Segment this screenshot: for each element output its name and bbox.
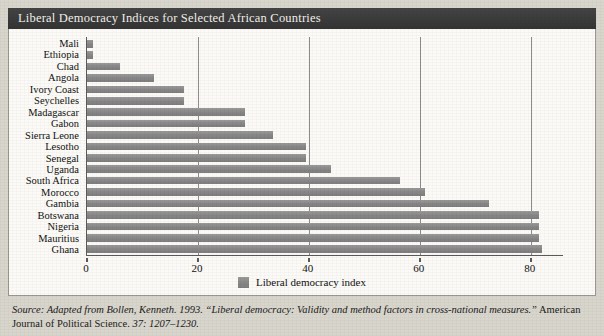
y-axis-label-south-africa: South Africa bbox=[9, 177, 83, 185]
bar-uganda bbox=[87, 165, 331, 173]
bar-row bbox=[87, 200, 563, 208]
bar-row bbox=[87, 40, 563, 48]
bar-row bbox=[87, 131, 563, 139]
bar-senegal bbox=[87, 154, 306, 162]
bar-ghana bbox=[87, 245, 542, 253]
y-axis-label-ghana: Ghana bbox=[9, 246, 83, 254]
y-axis-label-uganda: Uganda bbox=[9, 166, 83, 174]
source-note: Source: Adapted from Bollen, Kenneth. 19… bbox=[12, 303, 592, 331]
bar-morocco bbox=[87, 188, 425, 196]
y-axis-label-chad: Chad bbox=[9, 63, 83, 71]
bar-mauritius bbox=[87, 234, 539, 242]
bar-row bbox=[87, 165, 563, 173]
bar-row bbox=[87, 211, 563, 219]
source-label: Source: bbox=[12, 304, 44, 315]
bar-botswana bbox=[87, 211, 539, 219]
x-axis-label-80: 80 bbox=[524, 262, 535, 274]
x-axis-label-20: 20 bbox=[191, 262, 202, 274]
bar-row bbox=[87, 245, 563, 253]
chart-plot-area bbox=[86, 37, 563, 256]
bar-sierra-leone bbox=[87, 131, 273, 139]
y-axis-label-mali: Mali bbox=[9, 40, 83, 48]
bar-madagascar bbox=[87, 108, 245, 116]
legend-swatch-icon bbox=[238, 277, 249, 288]
bar-row bbox=[87, 234, 563, 242]
page-title: Liberal Democracy Indices for Selected A… bbox=[18, 11, 321, 26]
y-axis-label-seychelles: Seychelles bbox=[9, 97, 83, 105]
bar-row bbox=[87, 143, 563, 151]
bar-row bbox=[87, 120, 563, 128]
bar-row bbox=[87, 74, 563, 82]
y-axis-label-gambia: Gambia bbox=[9, 200, 83, 208]
bar-row bbox=[87, 177, 563, 185]
y-axis-label-senegal: Senegal bbox=[9, 155, 83, 163]
y-axis-label-morocco: Morocco bbox=[9, 189, 83, 197]
bar-ethiopia bbox=[87, 51, 93, 59]
bar-gabon bbox=[87, 120, 245, 128]
chart-legend: Liberal democracy index bbox=[9, 276, 595, 288]
bar-row bbox=[87, 86, 563, 94]
y-axis-label-mauritius: Mauritius bbox=[9, 235, 83, 243]
source-volume-pages: 37: 1207–1230. bbox=[132, 318, 199, 329]
y-axis-label-madagascar: Madagascar bbox=[9, 109, 83, 117]
bar-row bbox=[87, 188, 563, 196]
bar-row bbox=[87, 63, 563, 71]
bar-gambia bbox=[87, 200, 489, 208]
bar-lesotho bbox=[87, 143, 306, 151]
bar-nigeria bbox=[87, 223, 539, 231]
bar-seychelles bbox=[87, 97, 184, 105]
x-axis-label-0: 0 bbox=[83, 262, 89, 274]
y-axis-label-ivory-coast: Ivory Coast bbox=[9, 86, 83, 94]
bar-mali bbox=[87, 40, 93, 48]
x-axis-label-40: 40 bbox=[302, 262, 313, 274]
bar-rows bbox=[87, 37, 563, 255]
y-axis-label-gabon: Gabon bbox=[9, 120, 83, 128]
bar-row bbox=[87, 97, 563, 105]
bar-row bbox=[87, 154, 563, 162]
y-axis-label-nigeria: Nigeria bbox=[9, 223, 83, 231]
bar-angola bbox=[87, 74, 154, 82]
y-axis-label-sierra-leone: Sierra Leone bbox=[9, 132, 83, 140]
y-axis-labels: MaliEthiopiaChadAngolaIvory CoastSeychel… bbox=[9, 37, 83, 256]
bar-row bbox=[87, 51, 563, 59]
y-axis-label-ethiopia: Ethiopia bbox=[9, 51, 83, 59]
legend-label: Liberal democracy index bbox=[256, 276, 366, 288]
x-axis-labels: 020406080 bbox=[86, 258, 563, 274]
bar-row bbox=[87, 223, 563, 231]
plot-panel: MaliEthiopiaChadAngolaIvory CoastSeychel… bbox=[8, 29, 596, 296]
x-axis-label-60: 60 bbox=[413, 262, 424, 274]
y-axis-label-botswana: Botswana bbox=[9, 212, 83, 220]
bar-chad bbox=[87, 63, 120, 71]
y-axis-label-lesotho: Lesotho bbox=[9, 143, 83, 151]
figure-title-bar: Liberal Democracy Indices for Selected A… bbox=[8, 8, 596, 29]
bar-ivory-coast bbox=[87, 86, 184, 94]
source-citation-italic: Adapted from Bollen, Kenneth. 1993. “Lib… bbox=[44, 304, 537, 315]
figure-container: Liberal Democracy Indices for Selected A… bbox=[8, 8, 596, 296]
bar-row bbox=[87, 108, 563, 116]
y-axis-label-angola: Angola bbox=[9, 74, 83, 82]
bar-south-africa bbox=[87, 177, 400, 185]
